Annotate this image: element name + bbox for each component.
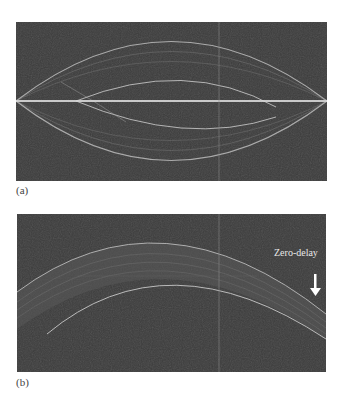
oct-scan-a (16, 22, 327, 181)
zero-delay-label: Zero-delay (274, 247, 318, 258)
panel-label-b: (b) (16, 376, 29, 388)
oct-scan-b (17, 214, 326, 372)
oct-image-panel-a (16, 22, 327, 181)
oct-image-panel-b (17, 214, 326, 372)
panel-label-a: (a) (16, 184, 28, 196)
